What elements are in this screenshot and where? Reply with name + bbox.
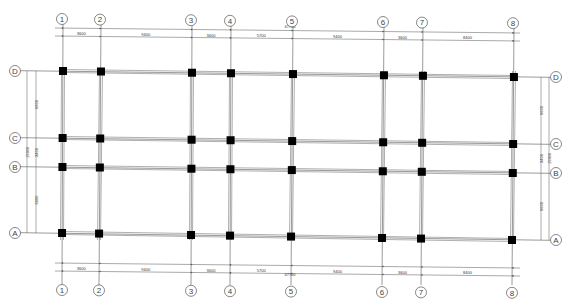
dimension-tick bbox=[512, 267, 514, 269]
axis-label-B: B bbox=[553, 169, 558, 178]
dimension-tick bbox=[62, 262, 64, 264]
beam-edge bbox=[190, 71, 191, 240]
dimension-line-segments bbox=[55, 36, 520, 41]
dimension-tick bbox=[512, 40, 514, 42]
column-2A bbox=[95, 230, 103, 238]
dimension-tick bbox=[62, 35, 64, 37]
dimension-total-label: 47700 bbox=[284, 272, 296, 277]
axis-label-7: 7 bbox=[420, 18, 425, 27]
dimension-tick bbox=[382, 266, 384, 268]
dimension-tick bbox=[99, 28, 101, 30]
dimension-tick bbox=[421, 266, 423, 268]
dimension-tick bbox=[421, 274, 423, 276]
axis-label-A: A bbox=[12, 229, 18, 238]
dimension-tick bbox=[382, 31, 384, 33]
grid-axis-3 bbox=[191, 24, 192, 285]
axis-bubbles: 1122334455667788DDCCBBAA bbox=[10, 14, 562, 299]
dimension-label: 9400 bbox=[333, 269, 343, 274]
column-6D bbox=[380, 71, 388, 79]
column-3A bbox=[187, 231, 195, 239]
axis-label-D: D bbox=[553, 73, 559, 82]
beam-edge bbox=[232, 71, 233, 240]
grid-axis-7 bbox=[421, 24, 423, 285]
beam-edge bbox=[420, 71, 422, 240]
dimension-tick bbox=[62, 27, 64, 29]
dimension-tick bbox=[230, 272, 232, 274]
dimension-total-label: 15900 bbox=[547, 152, 552, 164]
dimension-label: 8400 bbox=[463, 35, 473, 40]
dimension-tick bbox=[230, 29, 232, 31]
axis-label-A: A bbox=[553, 236, 559, 245]
axis-label-5: 5 bbox=[289, 287, 294, 296]
axis-label-1: 1 bbox=[60, 286, 65, 295]
beam-edge bbox=[293, 71, 295, 240]
grid-axis-lines bbox=[20, 24, 550, 285]
dimension-tick bbox=[191, 37, 193, 39]
dimension-label: 3600 bbox=[398, 270, 408, 275]
axis-label-2: 2 bbox=[98, 15, 103, 24]
dimension-label: 5700 bbox=[257, 33, 267, 38]
dimension-label: 6600 bbox=[34, 99, 39, 109]
column-1D bbox=[59, 67, 67, 75]
dimension-label: 9400 bbox=[141, 32, 151, 37]
column-6A bbox=[378, 234, 386, 242]
dimension-tick bbox=[291, 273, 293, 275]
axis-label-7: 7 bbox=[419, 288, 424, 297]
dimension-label: 3600 bbox=[398, 35, 408, 40]
axis-label-8: 8 bbox=[511, 19, 516, 28]
axis-label-C: C bbox=[12, 134, 18, 143]
dimension-label: 6600 bbox=[539, 105, 544, 115]
column-7D bbox=[419, 72, 427, 80]
column-1B bbox=[58, 163, 66, 171]
column-3D bbox=[188, 69, 196, 77]
dimension-tick bbox=[512, 32, 514, 34]
beam-edge bbox=[63, 70, 514, 76]
beam-edge bbox=[423, 71, 425, 240]
axis-label-2: 2 bbox=[97, 286, 102, 295]
grid-axis-8 bbox=[512, 24, 514, 285]
beam-edge bbox=[511, 71, 513, 240]
dimension-tick bbox=[191, 29, 193, 31]
axis-label-6: 6 bbox=[380, 288, 385, 297]
axis-label-B: B bbox=[12, 163, 17, 172]
dimension-tick bbox=[230, 37, 232, 39]
beam-lines bbox=[61, 70, 516, 242]
column-5A bbox=[287, 233, 295, 241]
column-5B bbox=[288, 166, 296, 174]
dimension-label: 3600 bbox=[77, 266, 87, 271]
dimension-label: 9400 bbox=[333, 34, 343, 39]
grid-axis-2 bbox=[99, 24, 101, 285]
column-5C bbox=[288, 137, 296, 145]
dimension-label: 2400 bbox=[539, 153, 544, 163]
dimension-line-total bbox=[55, 263, 520, 268]
axis-label-C: C bbox=[553, 140, 559, 149]
dimension-tick bbox=[291, 30, 293, 32]
axis-label-4: 4 bbox=[228, 17, 233, 26]
dimension-tick bbox=[382, 39, 384, 41]
dimension-tick bbox=[421, 31, 423, 33]
axis-label-3: 3 bbox=[189, 287, 194, 296]
dimension-tick bbox=[191, 272, 193, 274]
dimension-label: 3600 bbox=[207, 33, 217, 38]
beam-edge bbox=[514, 71, 516, 240]
dimension-tick bbox=[421, 39, 423, 41]
dimension-tick bbox=[512, 275, 514, 277]
beam-edge bbox=[290, 71, 292, 240]
column-8A bbox=[508, 236, 516, 244]
column-4D bbox=[227, 69, 235, 77]
column-8C bbox=[509, 140, 517, 148]
structural-grid-plan: 3600940036005700940036008400477003600940… bbox=[0, 0, 571, 307]
column-7A bbox=[417, 235, 425, 243]
column-1A bbox=[58, 229, 66, 237]
axis-label-6: 6 bbox=[381, 18, 386, 27]
column-8D bbox=[510, 73, 518, 81]
axis-label-3: 3 bbox=[189, 16, 194, 25]
dimension-tick bbox=[99, 271, 101, 273]
column-2D bbox=[97, 68, 105, 76]
grid-axis-5 bbox=[291, 24, 293, 285]
column-markers bbox=[58, 67, 518, 244]
column-6B bbox=[379, 167, 387, 175]
dimension-tick bbox=[99, 36, 101, 38]
beam-edge bbox=[229, 71, 230, 240]
column-2C bbox=[96, 135, 104, 143]
